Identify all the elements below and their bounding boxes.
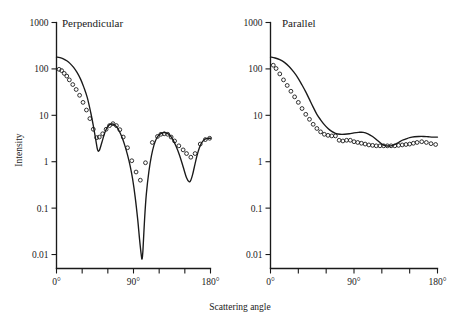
data-point-marker <box>429 142 433 146</box>
data-point-marker <box>278 72 282 76</box>
data-point-marker <box>138 178 142 182</box>
data-point-marker <box>404 143 408 147</box>
data-point-marker <box>67 78 71 82</box>
panel-title-parallel: Parallel <box>282 17 316 29</box>
y-tick-label-left: 100 <box>34 64 49 74</box>
data-point-marker <box>326 133 330 137</box>
x-tick-marks-right <box>271 269 438 274</box>
data-point-marker <box>177 144 181 148</box>
data-point-marker <box>330 134 334 138</box>
data-points-perpendicular <box>57 67 211 182</box>
data-point-marker <box>378 144 382 148</box>
y-tick-labels-left: 10001001010.10.01 <box>30 18 49 260</box>
x-tick-marks-left <box>57 269 211 274</box>
data-point-marker <box>345 138 349 142</box>
data-point-marker <box>356 141 360 145</box>
data-point-marker <box>319 130 323 134</box>
x-tick-label-right: 90° <box>347 277 361 287</box>
y-tick-label-left: 0.01 <box>32 250 49 260</box>
y-tick-label-left: 0.1 <box>37 204 49 214</box>
data-point-marker <box>337 138 341 142</box>
data-point-marker <box>181 148 185 152</box>
y-axis-left: 10001001010.10.01 <box>30 18 57 269</box>
x-tick-label-left: 0° <box>52 277 61 287</box>
data-point-marker <box>348 138 352 142</box>
theory-curve-parallel <box>271 57 438 146</box>
data-point-marker <box>300 107 304 111</box>
data-point-marker <box>411 141 415 145</box>
data-point-marker <box>415 141 419 145</box>
y-tick-label-left: 1000 <box>30 18 49 28</box>
data-point-marker <box>400 143 404 147</box>
data-point-marker <box>308 117 312 121</box>
theory-curve-perpendicular <box>57 57 211 259</box>
data-point-marker <box>97 135 101 139</box>
data-point-marker <box>304 112 308 116</box>
data-point-marker <box>434 143 438 147</box>
x-tick-labels-right: 0°90°180° <box>266 277 447 287</box>
data-point-marker <box>289 89 293 93</box>
data-point-marker <box>74 88 78 92</box>
y-tick-label-right: 10 <box>253 111 263 121</box>
data-point-marker <box>193 152 197 156</box>
data-point-marker <box>282 78 286 82</box>
data-point-marker <box>341 139 345 143</box>
data-point-marker <box>134 170 138 174</box>
x-tick-label-left: 90° <box>127 277 141 287</box>
data-point-marker <box>322 132 326 136</box>
data-point-marker <box>78 93 82 97</box>
x-tick-label-right: 180° <box>428 277 446 287</box>
y-tick-label-right: 1 <box>258 157 263 167</box>
y-tick-marks-left <box>52 23 57 255</box>
data-point-marker <box>144 161 148 165</box>
data-point-marker <box>371 143 375 147</box>
data-point-marker <box>85 108 89 112</box>
panel-perpendicular: Perpendicular 10001001010.10.01 0°90°180… <box>30 17 220 287</box>
data-point-marker <box>296 100 300 104</box>
panel-title-perpendicular: Perpendicular <box>62 17 123 29</box>
scattering-intensity-figure: Perpendicular 10001001010.10.01 0°90°180… <box>0 0 460 322</box>
y-tick-label-left: 10 <box>39 111 49 121</box>
data-point-marker <box>424 141 428 145</box>
data-point-marker <box>271 63 275 67</box>
data-point-marker <box>352 140 356 144</box>
data-point-marker <box>408 142 412 146</box>
data-point-marker <box>360 141 364 145</box>
y-tick-label-right: 100 <box>248 64 263 74</box>
data-point-marker <box>293 95 297 99</box>
data-point-marker <box>88 117 92 121</box>
panel-parallel: Parallel 10001001010.10.01 0°90°180° <box>244 17 447 287</box>
data-point-marker <box>311 122 315 126</box>
data-point-marker <box>150 141 154 145</box>
x-tick-labels-left: 0°90°180° <box>52 277 220 287</box>
y-tick-label-right: 1000 <box>244 18 263 28</box>
x-axis-left: 0°90°180° <box>52 269 220 287</box>
x-tick-label-left: 180° <box>201 277 219 287</box>
data-point-marker <box>315 127 319 131</box>
y-tick-label-right: 0.01 <box>246 250 263 260</box>
data-point-marker <box>274 67 278 71</box>
x-tick-label-right: 0° <box>266 277 275 287</box>
data-point-marker <box>189 155 193 159</box>
y-tick-marks-right <box>266 23 271 255</box>
x-axis-right: 0°90°180° <box>266 269 447 287</box>
data-point-marker <box>374 144 378 148</box>
x-axis-title: Scattering angle <box>209 302 270 312</box>
data-point-marker <box>130 159 134 163</box>
data-point-marker <box>285 84 289 88</box>
data-point-marker <box>65 74 69 78</box>
data-point-marker <box>420 140 424 144</box>
data-point-marker <box>397 143 401 147</box>
y-axis-right: 10001001010.10.01 <box>244 18 271 269</box>
data-point-marker <box>71 83 75 87</box>
y-tick-label-right: 0.1 <box>251 204 263 214</box>
data-point-marker <box>334 134 338 138</box>
y-tick-label-left: 1 <box>44 157 49 167</box>
data-point-marker <box>363 142 367 146</box>
data-point-marker <box>367 143 371 147</box>
y-axis-title: Intensity <box>14 133 24 166</box>
data-point-marker <box>185 152 189 156</box>
y-tick-labels-right: 10001001010.10.01 <box>244 18 263 260</box>
data-point-marker <box>81 100 85 104</box>
